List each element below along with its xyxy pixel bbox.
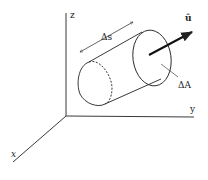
unit-vector-label: û <box>185 13 192 23</box>
y-axis-label: y <box>189 104 196 114</box>
back-cap-front-arc <box>78 62 105 106</box>
cylinder-bottom-edge <box>105 79 161 104</box>
length-label: Δs <box>101 32 112 42</box>
z-axis-label: z <box>70 10 75 20</box>
cylinder <box>78 28 175 106</box>
area-label: ΔA <box>178 80 191 90</box>
x-axis-label: x <box>11 149 16 159</box>
front-cap-deltaA <box>129 28 174 89</box>
y-axis <box>66 116 194 117</box>
cylinder-flux-diagram: z y x Δs û ΔA <box>0 0 208 180</box>
diagram-svg: z y x Δs û ΔA <box>0 0 208 180</box>
x-axis <box>13 116 66 162</box>
